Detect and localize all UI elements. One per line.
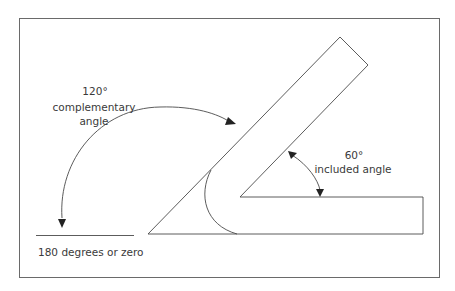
complementary-value-label: 120° bbox=[82, 85, 107, 97]
arrowhead-down-icon bbox=[316, 189, 324, 197]
complementary-line2-label: angle bbox=[79, 115, 108, 127]
arrowhead-down-icon bbox=[58, 219, 66, 228]
arm-outer-edge bbox=[148, 37, 340, 234]
arm-inner-edge bbox=[240, 65, 368, 197]
bent-bar bbox=[148, 37, 423, 234]
baseline-label: 180 degrees or zero bbox=[38, 246, 144, 258]
angle-diagram: 120° complementary angle 60° included an… bbox=[0, 0, 455, 291]
bend-fillet-curve bbox=[205, 170, 237, 234]
arm-end-cap bbox=[340, 37, 368, 65]
complementary-line1-label: complementary bbox=[53, 101, 136, 113]
included-text-label: included angle bbox=[314, 163, 391, 175]
included-value-label: 60° bbox=[345, 149, 364, 161]
arrowhead-right-icon bbox=[225, 117, 236, 125]
frame-border bbox=[20, 19, 440, 278]
